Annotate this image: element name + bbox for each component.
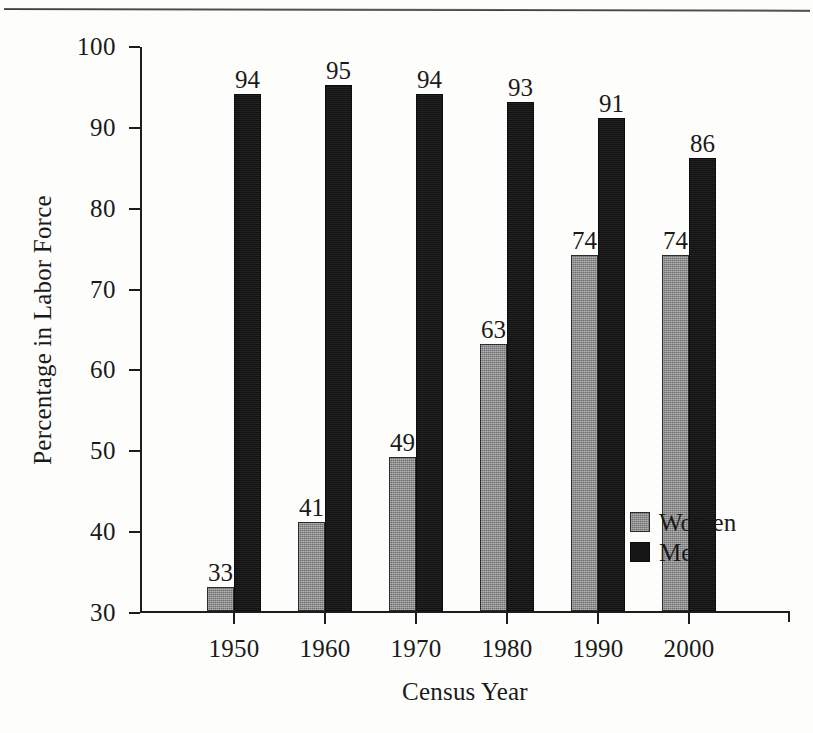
y-axis-tick — [129, 46, 140, 48]
y-axis-tick-label: 70 — [90, 277, 116, 302]
bar-women-1950: 33 — [207, 587, 234, 611]
y-axis-title-text: Percentage in Labor Force — [29, 195, 57, 464]
y-axis-tick-label: 60 — [90, 357, 116, 382]
y-axis-tick — [129, 289, 140, 291]
legend-item-men: Men — [630, 538, 736, 566]
x-axis-tick-label: 1990 — [572, 636, 623, 661]
bar-value-label: 91 — [599, 91, 624, 116]
bar-women-1960: 41 — [298, 522, 325, 611]
bar-value-label: 33 — [208, 560, 233, 585]
bar-value-label: 86 — [690, 131, 715, 156]
x-axis-tick — [597, 613, 599, 624]
x-axis-tick-label: 2000 — [663, 636, 714, 661]
x-axis-line — [140, 611, 790, 613]
y-axis-tick-label: 80 — [90, 196, 116, 221]
x-axis-tick-label: 1980 — [481, 636, 532, 661]
x-axis-tick — [506, 613, 508, 624]
y-axis-title: Percentage in Labor Force — [28, 47, 58, 613]
x-axis-tick — [233, 613, 235, 624]
bar-men-1990: 91 — [598, 118, 625, 611]
y-axis-tick-label: 30 — [90, 600, 116, 625]
x-axis-tick — [688, 613, 690, 624]
legend-swatch-men-icon — [630, 542, 650, 562]
x-axis-tick-label: 1950 — [208, 636, 259, 661]
x-axis-title: Census Year — [140, 678, 790, 706]
legend-label-women: Women — [659, 510, 736, 535]
bar-value-label: 94 — [417, 67, 442, 92]
y-axis-tick-label: 50 — [90, 438, 116, 463]
bar-value-label: 49 — [390, 430, 415, 455]
y-axis-tick-label: 100 — [77, 34, 116, 59]
y-axis-tick — [129, 612, 140, 614]
y-axis-tick-label: 40 — [90, 519, 116, 544]
bar-value-label: 94 — [235, 67, 260, 92]
x-axis-tick — [415, 613, 417, 624]
y-axis-tick — [129, 531, 140, 533]
legend-swatch-women-icon — [630, 512, 650, 532]
bar-women-1980: 63 — [480, 344, 507, 611]
y-axis-tick — [129, 127, 140, 129]
y-axis-line — [140, 47, 142, 613]
chart-legend: Women Men — [630, 508, 736, 566]
y-axis-tick — [129, 208, 140, 210]
legend-item-women: Women — [630, 508, 736, 536]
bar-men-1980: 93 — [507, 102, 534, 611]
y-axis-tick — [129, 369, 140, 371]
plot-area: 30405060708090100 1950196019701980199020… — [140, 47, 790, 613]
bar-men-1950: 94 — [234, 94, 261, 611]
bar-value-label: 95 — [326, 58, 351, 83]
bar-value-label: 74 — [663, 228, 688, 253]
y-axis-tick-label: 90 — [90, 115, 116, 140]
x-axis-tick-label: 1970 — [390, 636, 441, 661]
bar-value-label: 41 — [299, 495, 324, 520]
bar-women-1990: 74 — [571, 255, 598, 611]
bar-chart-figure: Percentage in Labor Force Census Year 30… — [0, 0, 813, 733]
legend-label-men: Men — [659, 540, 705, 565]
y-axis-tick — [129, 450, 140, 452]
bar-women-1970: 49 — [389, 457, 416, 611]
bar-men-1960: 95 — [325, 85, 352, 611]
x-axis-tick — [324, 613, 326, 624]
x-axis-end-tick — [788, 611, 790, 622]
bar-value-label: 93 — [508, 75, 533, 100]
bar-value-label: 74 — [572, 228, 597, 253]
bar-men-1970: 94 — [416, 94, 443, 611]
figure-page: Percentage in Labor Force Census Year 30… — [0, 0, 813, 733]
x-axis-tick-label: 1960 — [299, 636, 350, 661]
bar-value-label: 63 — [481, 317, 506, 342]
